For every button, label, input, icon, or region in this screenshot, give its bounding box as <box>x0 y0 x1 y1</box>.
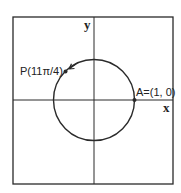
point-p <box>64 70 68 74</box>
point-a-label: A=(1, 0) <box>136 86 175 98</box>
x-axis-label: x <box>163 100 170 115</box>
y-axis-label: y <box>84 17 91 32</box>
arrow-icon <box>69 64 76 69</box>
point-a <box>133 98 137 102</box>
point-p-label: P(11π/4) <box>20 65 63 77</box>
unit-circle-diagram: y x A=(1, 0) P(11π/4) <box>0 0 181 193</box>
